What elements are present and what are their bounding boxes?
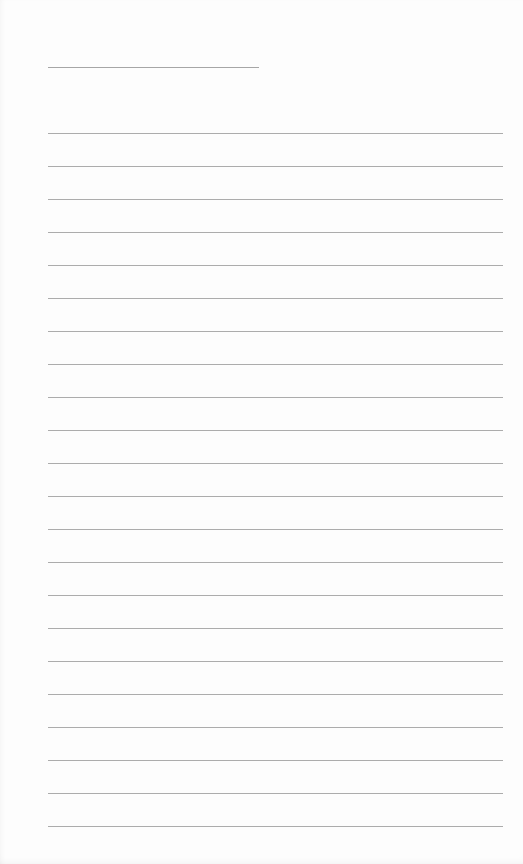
ruled-line — [48, 298, 503, 299]
ruled-line — [48, 265, 503, 266]
ruled-line — [48, 694, 503, 695]
ruled-line — [48, 628, 503, 629]
ruled-line — [48, 826, 503, 827]
ruled-line — [48, 331, 503, 332]
ruled-line — [48, 595, 503, 596]
ruled-line — [48, 562, 503, 563]
ruled-line — [48, 397, 503, 398]
title-line — [48, 67, 259, 68]
ruled-line — [48, 133, 503, 134]
ruled-line — [48, 199, 503, 200]
ruled-line — [48, 430, 503, 431]
ruled-line — [48, 529, 503, 530]
ruled-line — [48, 166, 503, 167]
ruled-line — [48, 661, 503, 662]
ruled-line — [48, 760, 503, 761]
ruled-line — [48, 364, 503, 365]
ruled-line — [48, 232, 503, 233]
ruled-line — [48, 463, 503, 464]
ruled-line — [48, 727, 503, 728]
ruled-line — [48, 793, 503, 794]
lined-page — [0, 0, 523, 864]
ruled-line — [48, 496, 503, 497]
